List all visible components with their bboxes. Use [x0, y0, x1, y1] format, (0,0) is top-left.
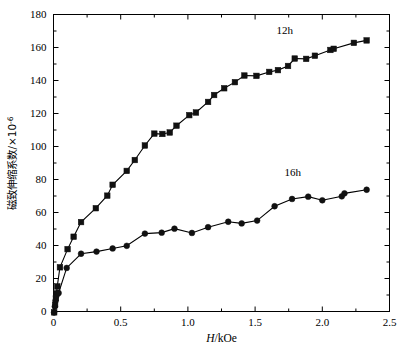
data-point-12h — [351, 40, 357, 46]
y-tick-label: 40 — [36, 239, 48, 251]
data-point-16h — [342, 190, 348, 196]
y-tick-label: 100 — [30, 140, 47, 152]
data-point-12h — [331, 46, 337, 52]
data-point-12h — [104, 193, 110, 199]
data-point-12h — [221, 85, 227, 91]
data-point-12h — [232, 79, 238, 85]
data-point-16h — [110, 246, 116, 252]
x-tick-label: 0 — [51, 316, 57, 328]
series-label-12h: 12h — [276, 24, 293, 36]
data-point-12h — [303, 56, 309, 62]
data-point-12h — [205, 99, 211, 105]
data-point-12h — [54, 284, 60, 290]
chart-background — [0, 0, 403, 350]
x-tick-label: 1.5 — [248, 316, 262, 328]
data-point-12h — [266, 69, 272, 75]
data-point-16h — [52, 304, 58, 310]
data-point-16h — [272, 203, 278, 209]
data-point-16h — [78, 251, 84, 257]
data-point-16h — [319, 197, 325, 203]
data-point-12h — [93, 205, 99, 211]
y-tick-label: 140 — [30, 74, 47, 86]
data-point-16h — [225, 219, 231, 225]
y-tick-label: 160 — [30, 41, 47, 53]
data-point-12h — [124, 168, 130, 174]
data-point-12h — [57, 264, 63, 270]
data-point-12h — [193, 110, 199, 116]
y-tick-label: 120 — [30, 107, 47, 119]
data-point-12h — [285, 63, 291, 69]
data-point-16h — [305, 194, 311, 200]
data-point-12h — [292, 56, 298, 62]
data-point-12h — [186, 112, 192, 118]
data-point-16h — [172, 226, 178, 232]
data-point-12h — [142, 143, 148, 149]
y-tick-label: 20 — [36, 272, 48, 284]
data-point-16h — [254, 218, 260, 224]
x-tick-label: 2.0 — [315, 316, 329, 328]
data-point-16h — [189, 230, 195, 236]
data-point-16h — [124, 243, 130, 249]
data-point-12h — [275, 67, 281, 73]
data-point-16h — [64, 265, 70, 271]
data-point-16h — [364, 187, 370, 193]
data-point-16h — [289, 196, 295, 202]
x-tick-label: 2.5 — [383, 316, 397, 328]
data-point-16h — [94, 249, 100, 255]
data-point-16h — [56, 290, 62, 296]
data-point-12h — [132, 157, 138, 163]
x-tick-label: 1.0 — [181, 316, 195, 328]
x-tick-label: 0.5 — [114, 316, 128, 328]
data-point-16h — [239, 220, 245, 226]
data-point-12h — [152, 131, 158, 137]
data-point-12h — [242, 73, 248, 79]
magnetostriction-chart-figure: 020406080100120140160180 00.51.01.52.02.… — [0, 0, 403, 350]
data-point-12h — [71, 234, 77, 240]
data-point-16h — [142, 231, 148, 237]
data-point-16h — [51, 310, 57, 316]
data-point-16h — [205, 224, 211, 230]
y-tick-label: 60 — [36, 206, 48, 218]
data-point-12h — [364, 38, 370, 44]
data-point-12h — [167, 130, 173, 136]
data-point-12h — [312, 53, 318, 59]
y-axis-title: 磁致伸缩系数/×10-6 — [6, 116, 19, 209]
y-tick-label: 180 — [30, 8, 47, 20]
data-point-12h — [254, 73, 260, 79]
y-tick-label: 0 — [41, 305, 47, 317]
y-tick-label: 80 — [36, 173, 48, 185]
chart-plot-area: 020406080100120140160180 00.51.01.52.02.… — [0, 0, 403, 350]
data-point-16h — [159, 230, 165, 236]
x-axis-title: H/kOe — [205, 332, 237, 344]
data-point-12h — [110, 182, 116, 188]
data-point-12h — [211, 92, 217, 98]
series-label-16h: 16h — [284, 166, 301, 178]
data-point-12h — [174, 123, 180, 129]
data-point-12h — [65, 246, 71, 252]
data-point-12h — [78, 219, 84, 225]
data-point-12h — [160, 131, 166, 137]
